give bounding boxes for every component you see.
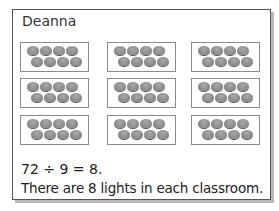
light-icon [57, 57, 69, 66]
light-icon [224, 119, 236, 128]
light-icon [27, 46, 39, 55]
light-icon [198, 46, 210, 55]
light-icon [215, 93, 227, 102]
light-icon [153, 46, 165, 55]
light-icon [202, 130, 214, 139]
light-icon [198, 82, 210, 91]
light-row [118, 93, 169, 102]
light-icon [140, 46, 152, 55]
light-icon [153, 82, 165, 91]
light-icon [27, 82, 39, 91]
classroom-group [20, 115, 89, 145]
light-icon [27, 119, 39, 128]
light-icon [127, 82, 139, 91]
light-icon [211, 46, 223, 55]
light-icon [131, 130, 143, 139]
light-icon [144, 130, 156, 139]
light-icon [228, 93, 240, 102]
light-icon [127, 46, 139, 55]
light-icon [70, 57, 82, 66]
light-icon [114, 46, 126, 55]
light-row [198, 82, 249, 91]
light-row [27, 82, 78, 91]
light-row [202, 57, 253, 66]
classroom-group [107, 42, 176, 72]
light-icon [215, 57, 227, 66]
light-row [31, 130, 82, 139]
light-icon [31, 93, 43, 102]
light-icon [40, 46, 52, 55]
light-icon [31, 57, 43, 66]
light-icon [140, 82, 152, 91]
light-icon [241, 57, 253, 66]
light-icon [140, 119, 152, 128]
light-icon [237, 46, 249, 55]
light-icon [228, 57, 240, 66]
light-icon [57, 130, 69, 139]
light-icon [153, 119, 165, 128]
light-icon [144, 93, 156, 102]
answer-sentence: There are 8 lights in each classroom. [21, 180, 263, 196]
light-icon [53, 46, 65, 55]
light-icon [237, 82, 249, 91]
classroom-group [107, 78, 176, 108]
light-row [202, 93, 253, 102]
light-row [114, 46, 165, 55]
light-row [118, 57, 169, 66]
light-icon [215, 130, 227, 139]
light-icon [241, 93, 253, 102]
light-icon [44, 130, 56, 139]
light-icon [57, 93, 69, 102]
classroom-group [191, 42, 260, 72]
classroom-group [191, 78, 260, 108]
light-icon [70, 130, 82, 139]
light-row [27, 119, 78, 128]
student-name: Deanna [22, 13, 76, 29]
light-row [31, 93, 82, 102]
student-work-card: Deanna 72 ÷ 9 = 8. There are 8 lights in… [12, 9, 271, 200]
light-icon [157, 93, 169, 102]
division-equation: 72 ÷ 9 = 8. [21, 161, 102, 177]
light-row [31, 57, 82, 66]
light-row [114, 119, 165, 128]
classroom-group [20, 78, 89, 108]
light-icon [224, 82, 236, 91]
light-icon [66, 119, 78, 128]
light-icon [53, 82, 65, 91]
light-row [114, 82, 165, 91]
light-icon [53, 119, 65, 128]
light-icon [114, 119, 126, 128]
light-icon [118, 93, 130, 102]
light-icon [127, 119, 139, 128]
light-icon [157, 130, 169, 139]
light-icon [211, 82, 223, 91]
classroom-group [20, 42, 89, 72]
light-row [118, 130, 169, 139]
light-icon [131, 57, 143, 66]
light-icon [131, 93, 143, 102]
light-icon [144, 57, 156, 66]
light-icon [241, 130, 253, 139]
light-icon [237, 119, 249, 128]
light-icon [228, 130, 240, 139]
light-row [198, 119, 249, 128]
light-icon [224, 46, 236, 55]
light-row [202, 130, 253, 139]
classroom-group [107, 115, 176, 145]
light-icon [40, 119, 52, 128]
light-icon [70, 93, 82, 102]
light-icon [157, 57, 169, 66]
light-icon [118, 57, 130, 66]
light-icon [31, 130, 43, 139]
light-icon [44, 93, 56, 102]
light-icon [198, 119, 210, 128]
classroom-group [191, 115, 260, 145]
light-icon [202, 93, 214, 102]
light-icon [202, 57, 214, 66]
light-icon [114, 82, 126, 91]
light-row [27, 46, 78, 55]
light-icon [211, 119, 223, 128]
light-icon [66, 46, 78, 55]
light-icon [44, 57, 56, 66]
light-icon [40, 82, 52, 91]
